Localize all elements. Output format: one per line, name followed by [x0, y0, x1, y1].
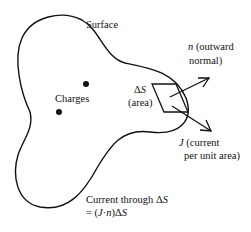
- charges-label: Charges: [55, 93, 89, 104]
- gauss-surface-diagram: Surface Charges ΔS (area) n (outward nor…: [0, 0, 251, 232]
- current-vector-arrow: [172, 106, 211, 131]
- normal-vector-arrow: [170, 78, 209, 97]
- normal-label-text: (outward: [193, 41, 234, 53]
- s-variable: S: [141, 84, 147, 95]
- flux-s-variable-2: S: [122, 207, 128, 218]
- charge-dot: [83, 81, 89, 87]
- current-label-line1: J (current: [179, 137, 220, 149]
- flux-label-line1: Current through ΔS: [86, 194, 169, 205]
- flux-eq-close: )Δ: [111, 207, 121, 219]
- delta-s-label: ΔS: [134, 84, 147, 95]
- flux-s-variable: S: [163, 194, 169, 205]
- flux-label-line2: = (J·n)ΔS: [86, 207, 128, 219]
- normal-label-line2: normal): [189, 55, 223, 67]
- closed-surface-outline: [16, 15, 189, 207]
- area-note: (area): [128, 97, 153, 109]
- charge-dot: [56, 109, 62, 115]
- surface-label: Surface: [86, 19, 118, 30]
- flux-text: Current through Δ: [86, 194, 163, 205]
- flux-eq-prefix: = (: [86, 207, 99, 219]
- area-element-delta-s: [152, 84, 188, 112]
- current-label-line2: per unit area): [184, 150, 240, 162]
- normal-label-line1: n (outward: [188, 41, 235, 53]
- current-label-text: (current: [184, 137, 220, 149]
